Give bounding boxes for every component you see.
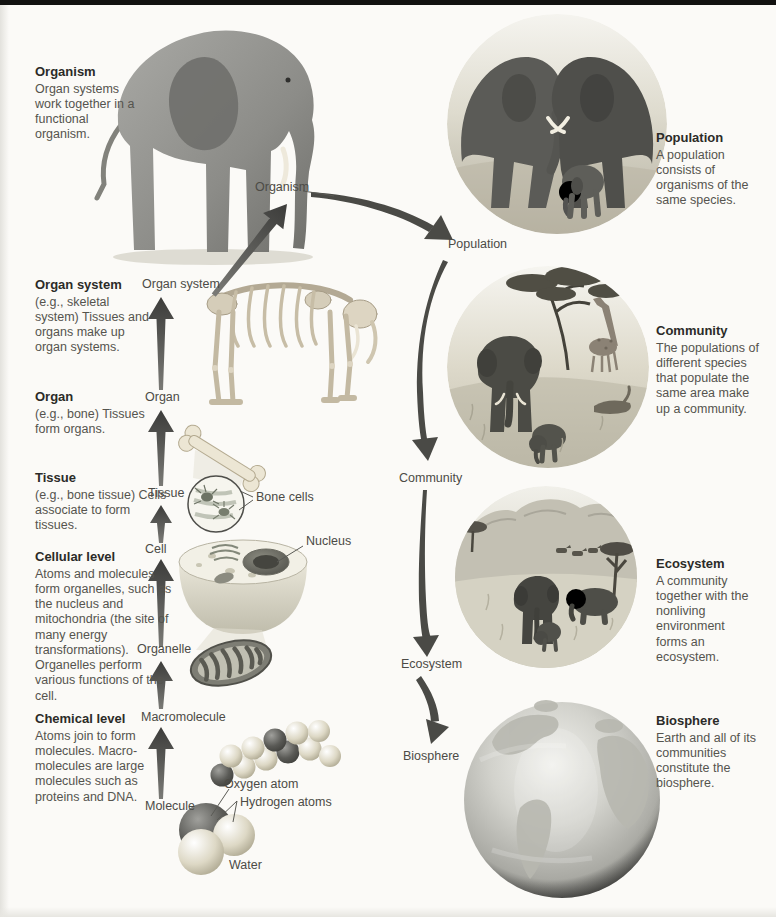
- skeleton-illustration: [207, 285, 377, 402]
- label-cell: Cell: [145, 542, 167, 556]
- label-population: Population: [448, 237, 507, 251]
- label-organelle: Organelle: [137, 642, 191, 656]
- body-organ: (e.g., bone) Tissues form organs.: [35, 407, 145, 438]
- arrow-ecosystem-to-biosphere: [416, 676, 449, 744]
- description-organ: Organ (e.g., bone) Tissues form organs.: [35, 389, 145, 437]
- body-biosphere: Earth and all of its communities constit…: [656, 731, 760, 792]
- arrow-community-to-ecosystem: [413, 490, 439, 657]
- elephant-ear: [169, 57, 238, 150]
- population-vignette: [447, 14, 667, 242]
- description-community: Community The populations of different s…: [656, 323, 760, 417]
- body-ecosystem: A community together with the nonliving …: [656, 574, 752, 666]
- description-chemical-level: Chemical level Atoms join to form molecu…: [35, 711, 159, 805]
- description-population: Population A population consists of orga…: [656, 130, 762, 209]
- baby-elephant: [559, 165, 604, 216]
- bone-cells-illustration: [188, 476, 244, 532]
- label-water: Water: [229, 858, 262, 872]
- description-organism: Organism Organ systems work together in …: [35, 64, 145, 143]
- description-ecosystem: Ecosystem A community together with the …: [656, 556, 752, 665]
- hydrogen-sphere: [178, 829, 224, 875]
- cell-illustration: [179, 540, 307, 652]
- heading-population: Population: [656, 130, 762, 146]
- arrow-organism-to-population: [311, 192, 453, 240]
- description-cellular-level: Cellular level Atoms and molecules form …: [35, 549, 173, 704]
- ecosystem-vignette: [452, 486, 660, 672]
- body-organism: Organ systems work together in a functio…: [35, 82, 145, 143]
- label-organ: Organ: [145, 390, 180, 404]
- label-biosphere: Biosphere: [403, 749, 459, 763]
- body-chemical-level: Atoms join to form molecules. Macro-mole…: [35, 729, 159, 805]
- label-bone-cells: Bone cells: [256, 490, 314, 504]
- label-hydrogen-atoms: Hydrogen atoms: [240, 795, 332, 809]
- heading-organ-system: Organ system: [35, 277, 153, 293]
- description-biosphere: Biosphere Earth and all of its communiti…: [656, 713, 760, 792]
- description-tissue: Tissue (e.g., bone tissue) Cells associa…: [35, 470, 167, 533]
- label-macromolecule: Macromolecule: [141, 710, 226, 724]
- heading-ecosystem: Ecosystem: [656, 556, 752, 572]
- community-vignette: [447, 266, 669, 472]
- textbook-figure-page: Organism Organ systems work together in …: [0, 0, 776, 917]
- heading-community: Community: [656, 323, 760, 339]
- heading-organ: Organ: [35, 389, 145, 405]
- body-cellular-level: Atoms and molecules form organelles, suc…: [35, 567, 173, 704]
- arrow-population-to-community: [412, 260, 448, 461]
- label-organism: Organism: [255, 180, 309, 194]
- label-oxygen-atom: Oxygen atom: [224, 777, 298, 791]
- heading-tissue: Tissue: [35, 470, 167, 486]
- label-nucleus: Nucleus: [306, 534, 351, 548]
- heading-biosphere: Biosphere: [656, 713, 760, 729]
- label-molecule: Molecule: [145, 799, 195, 813]
- label-community: Community: [399, 471, 462, 485]
- heading-organism: Organism: [35, 64, 145, 80]
- body-organ-system: (e.g., skeletal system) Tissues and orga…: [35, 295, 153, 356]
- label-organ-system: Organ system: [142, 277, 220, 291]
- label-ecosystem: Ecosystem: [401, 657, 462, 671]
- hills: [452, 499, 640, 582]
- biosphere-globe: [464, 700, 660, 898]
- body-population: A population consists of organisms of th…: [656, 148, 762, 209]
- label-tissue: Tissue: [148, 486, 184, 500]
- body-community: The populations of different species tha…: [656, 341, 760, 417]
- description-organ-system: Organ system (e.g., skeletal system) Tis…: [35, 277, 153, 356]
